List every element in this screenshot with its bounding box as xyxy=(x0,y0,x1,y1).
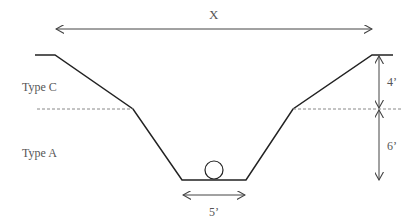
channel-cross-section-diagram xyxy=(0,0,416,222)
bottom-width-label: 5’ xyxy=(209,206,219,218)
top-width-label: X xyxy=(209,8,218,21)
type-a-label: Type A xyxy=(22,147,57,159)
pipe-circle-icon xyxy=(205,161,223,179)
type-c-label: Type C xyxy=(22,81,57,93)
lower-depth-label: 6’ xyxy=(387,140,397,152)
upper-depth-label: 4’ xyxy=(387,76,397,88)
